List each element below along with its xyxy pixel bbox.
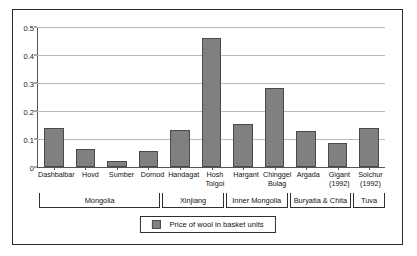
bar (76, 149, 96, 167)
bar (296, 131, 316, 167)
bar (170, 130, 190, 167)
y-axis-tick-mark (34, 167, 37, 168)
bar-slot (259, 28, 291, 167)
x-axis-label: Hosh Tolgoi (199, 170, 230, 188)
y-axis-tick-label: 0.5 (24, 24, 34, 32)
bar-slot (290, 28, 322, 167)
legend-swatch-icon (151, 220, 160, 229)
group-bracket: Tuva (353, 193, 385, 208)
group-bracket: Mongolia (39, 193, 160, 208)
bar-slot (196, 28, 228, 167)
y-axis-tick-mark (34, 111, 37, 112)
x-axis-label: Sumber (106, 170, 137, 188)
bar-slot (353, 28, 385, 167)
legend: Price of wool in basket units (139, 216, 275, 233)
x-axis-label: Dashbalbar (38, 170, 75, 188)
y-axis-tick-mark (34, 83, 37, 84)
bar-slot (164, 28, 196, 167)
y-axis-tick-mark (34, 55, 37, 56)
bar (359, 128, 379, 167)
x-axis-label: Chinggel Bulag (262, 170, 293, 188)
group-bracket: Inner Mongolia (226, 193, 288, 208)
bar (139, 151, 159, 167)
group-brackets: MongoliaXinjiangInner MongoliaBuryatia &… (38, 193, 386, 208)
y-axis-tick-label: 0 (30, 164, 34, 172)
y-axis-tick-label: 0.2 (24, 108, 34, 116)
x-axis-labels: DashbalbarHovdSumberDornodHandagatHosh T… (38, 170, 386, 188)
group-bracket: Xinjiang (162, 193, 224, 208)
plot-area: 00.10.20.30.40.5 (37, 28, 385, 168)
x-axis-label: Dornod (137, 170, 168, 188)
bar-slot (101, 28, 133, 167)
bar (265, 88, 285, 168)
chart-figure: 00.10.20.30.40.5 DashbalbarHovdSumberDor… (12, 9, 403, 245)
bar-slot (38, 28, 70, 167)
x-axis-label: Solchur (1992) (355, 170, 386, 188)
bar (202, 38, 222, 167)
y-axis-tick-mark (34, 27, 37, 28)
group-bracket: Buryatia & Chita (290, 193, 352, 208)
y-axis-tick-label: 0.4 (24, 52, 34, 60)
bar-slot (322, 28, 354, 167)
x-axis-label: Argada (293, 170, 324, 188)
y-axis-tick-label: 0.3 (24, 80, 34, 88)
bar-slot (227, 28, 259, 167)
bar (328, 143, 348, 167)
x-axis-label: Gigant (1992) (324, 170, 355, 188)
x-axis-label: Hovd (75, 170, 106, 188)
y-axis-tick-mark (34, 139, 37, 140)
bar-series (38, 28, 385, 167)
legend-label: Price of wool in basket units (169, 220, 263, 229)
y-axis-tick-label: 0.1 (24, 136, 34, 144)
bar-slot (70, 28, 102, 167)
x-axis-label: Handagat (168, 170, 199, 188)
bar (44, 128, 64, 167)
bar-slot (133, 28, 165, 167)
bar (233, 124, 253, 167)
x-axis-label: Hargant (230, 170, 261, 188)
